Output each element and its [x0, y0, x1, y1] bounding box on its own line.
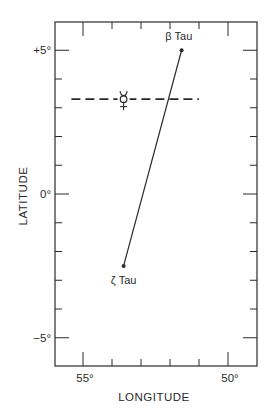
- svg-text:55°: 55°: [76, 372, 93, 384]
- svg-text:+5°: +5°: [33, 44, 51, 56]
- y-axis-label: LATITUDE: [17, 167, 29, 226]
- x-axis-ticks: 55°50°: [76, 22, 238, 384]
- svg-text:−5°: −5°: [33, 332, 51, 344]
- data-series: [71, 48, 199, 268]
- plot-frame: [55, 22, 257, 366]
- svg-text:0°: 0°: [40, 188, 51, 200]
- zeta-tau-label: ζ Tau: [111, 274, 137, 286]
- chart: 55°50° +5°0°−5° β Tau ζ Tau LONGITUDE LA…: [0, 0, 272, 415]
- mercury-icon: [118, 91, 130, 110]
- svg-text:50°: 50°: [221, 372, 238, 384]
- y-axis-ticks: +5°0°−5°: [33, 44, 257, 344]
- beta-tau-label: β Tau: [165, 30, 192, 42]
- x-axis-label: LONGITUDE: [118, 391, 190, 403]
